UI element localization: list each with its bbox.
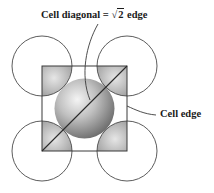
cell-edge-label: Cell edge <box>160 108 201 119</box>
radicand: 2 <box>117 8 124 20</box>
diagonal-label-suffix: edge <box>124 9 147 20</box>
cell-diagonal-label: Cell diagonal = √2 edge <box>41 9 148 20</box>
diagonal-label-prefix: Cell diagonal = <box>41 9 111 20</box>
fcc-unit-cell-face-diagram <box>0 0 214 193</box>
sqrt-symbol: √2 <box>111 9 124 20</box>
edge-leader-line <box>127 106 156 115</box>
